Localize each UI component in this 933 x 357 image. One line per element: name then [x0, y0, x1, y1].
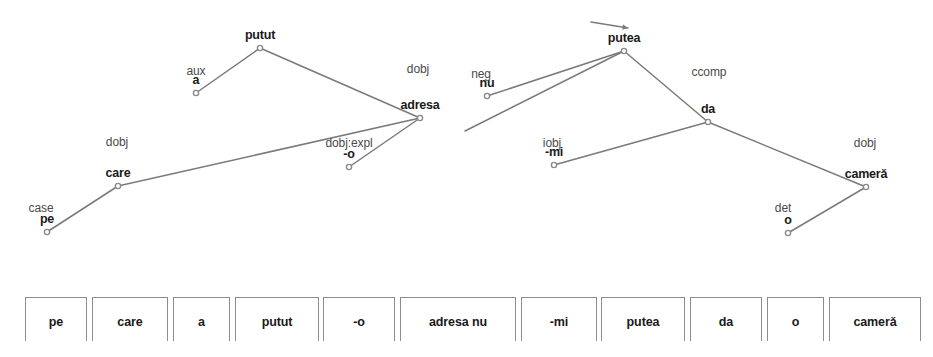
tree-node-dot-minuso[interactable] [346, 164, 351, 169]
tree-node-label-o: o [784, 213, 791, 227]
tree-node-dot-o[interactable] [785, 230, 790, 235]
dependency-tree-figure: pututaadresacarepe-oputeanuda-micamerǎoa… [0, 0, 933, 357]
cross-edge-x-adresa-putea [465, 51, 624, 131]
tree-node-label-adresa: adresa [400, 98, 439, 112]
tree-node-dot-care[interactable] [115, 183, 120, 188]
edge-relation-label-e-dobj-3: dobj [854, 136, 876, 150]
word-box-label: putut [262, 315, 293, 329]
edge-line-e-dobj-3 [708, 122, 866, 187]
word-box-label: da [719, 315, 733, 329]
tree-node-dot-nu[interactable] [484, 93, 489, 98]
edge-line-e-det [788, 187, 866, 233]
edge-relation-label-e-ccomp: ccomp [692, 65, 727, 79]
tree-node-dot-putut[interactable] [257, 45, 262, 50]
tree-node-label-da: da [701, 102, 715, 116]
edge-line-e-neg [487, 51, 624, 96]
edge-relation-label-e-det: det [775, 201, 791, 215]
edge-relation-label-e-dobj-2: dobj [106, 135, 128, 149]
tree-node-dot-mi[interactable] [551, 162, 556, 167]
edge-relation-label-e-aux: aux [186, 64, 205, 78]
edge-relation-label-e-dobj-1: dobj [407, 62, 429, 76]
word-box-wb-o2[interactable]: o [767, 297, 824, 341]
word-box-label: o [792, 315, 800, 329]
edge-relation-label-e-iobj: iobj [543, 136, 561, 150]
edge-line-e-aux [196, 48, 260, 93]
edge-line-e-ccomp [624, 51, 708, 122]
tree-node-dot-putea[interactable] [621, 48, 626, 53]
tree-node-dot-da[interactable] [705, 119, 710, 124]
word-box-wb-da[interactable]: da [690, 297, 762, 341]
word-box-label: adresa nu [429, 315, 487, 329]
word-box-label: a [198, 315, 205, 329]
tree-node-dot-adresa[interactable] [417, 115, 422, 120]
word-box-label: camerǎ [853, 315, 896, 329]
word-box-wb-putea[interactable]: putea [601, 297, 685, 341]
tree-node-label-putut: putut [245, 28, 275, 42]
word-box-label: -mi [550, 315, 568, 329]
tree-node-dot-pe[interactable] [44, 229, 49, 234]
word-box-label: care [117, 315, 142, 329]
tree-node-label-care: care [106, 166, 131, 180]
word-box-wb-a[interactable]: a [173, 297, 230, 341]
word-box-wb-pe[interactable]: pe [25, 297, 87, 341]
edge-relation-label-e-case: case [29, 201, 54, 215]
edge-relation-label-e-dobjexpl: dobj:expl [325, 136, 372, 150]
word-box-wb-care[interactable]: care [92, 297, 168, 341]
edge-line-e-iobj [554, 122, 708, 165]
word-box-wb-camera[interactable]: camerǎ [829, 297, 921, 341]
word-box-wb-adresa[interactable]: adresa nu [400, 297, 516, 341]
tree-node-label-putea: putea [608, 31, 640, 45]
word-box-wb-putut[interactable]: putut [235, 297, 319, 341]
word-box-label: putea [627, 315, 660, 329]
edge-line-e-dobj-1 [260, 48, 420, 118]
edge-line-e-dobj-2 [118, 118, 420, 186]
edge-relation-label-e-neg: neg [471, 67, 491, 81]
word-box-label: -o [353, 315, 365, 329]
tree-node-dot-camera[interactable] [863, 184, 868, 189]
tree-node-label-camera: camerǎ [845, 167, 888, 181]
word-box-wb-mi[interactable]: -mi [521, 297, 597, 341]
root-arc-x-root-arc [591, 22, 628, 28]
tree-node-dot-a[interactable] [193, 90, 198, 95]
word-sequence-bar: pecareaputut-oadresa nu-miputeadaocamerǎ [0, 297, 933, 357]
edge-line-e-case [47, 186, 118, 232]
word-box-label: pe [49, 315, 63, 329]
word-box-wb-o[interactable]: -o [323, 297, 395, 341]
